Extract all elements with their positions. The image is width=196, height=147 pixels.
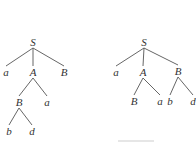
node-d: d <box>29 126 35 137</box>
node-b1: B <box>61 67 68 78</box>
edge-B2-b <box>9 108 19 125</box>
edge-S-B1 <box>33 48 64 66</box>
node-b: b <box>6 126 12 137</box>
node-b: b <box>167 96 173 107</box>
node-s: S <box>141 37 147 48</box>
edge-A-B2 <box>134 78 143 95</box>
edge-S-B1 <box>144 48 178 65</box>
edge-S-a1 <box>6 48 33 66</box>
node-a: A <box>140 67 147 78</box>
edge-A-a2 <box>143 78 160 95</box>
node-b2: B <box>131 96 138 107</box>
node-a2: a <box>44 97 50 108</box>
node-s: S <box>30 37 36 48</box>
node-b2: B <box>16 97 23 108</box>
edge-S-A <box>143 48 144 66</box>
faint-caption <box>118 140 154 142</box>
edge-B1-d <box>178 77 193 95</box>
node-b1: B <box>175 66 182 77</box>
node-a1: a <box>3 67 9 78</box>
node-a2: a <box>157 96 163 107</box>
edge-B1-b <box>170 77 178 95</box>
edge-A-a2 <box>33 78 47 96</box>
node-d: d <box>190 96 196 107</box>
edge-B2-d <box>19 108 32 125</box>
node-a: A <box>30 67 37 78</box>
edge-A-B2 <box>19 78 33 96</box>
edge-S-a1 <box>116 48 144 66</box>
node-a1: a <box>113 67 119 78</box>
